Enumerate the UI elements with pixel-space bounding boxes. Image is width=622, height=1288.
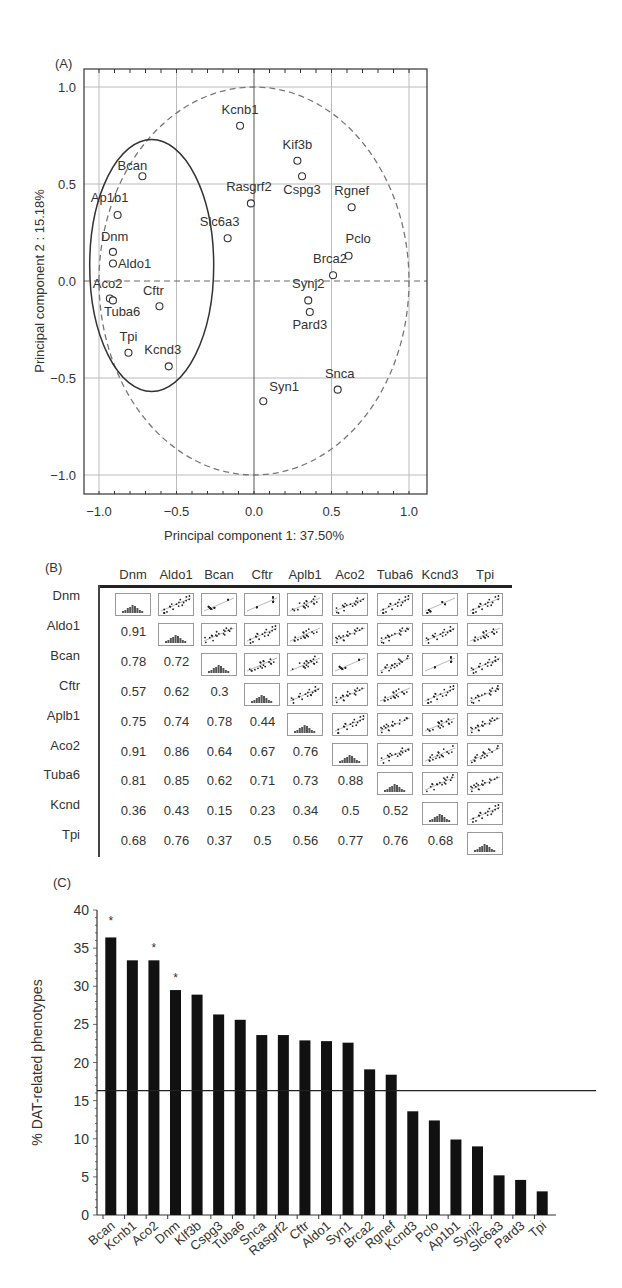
point-label: Brca2 xyxy=(313,251,347,266)
row-header: Aplb1 xyxy=(20,708,80,723)
point-label: Aco2 xyxy=(93,276,123,291)
svg-text:30: 30 xyxy=(73,978,89,994)
scatter-thumbnail xyxy=(158,593,194,616)
correlation-value: 0.57 xyxy=(111,684,156,699)
svg-text:0: 0 xyxy=(81,1207,89,1223)
data-point-rgnef xyxy=(348,204,355,211)
column-header: Kcnd3 xyxy=(415,567,465,582)
correlation-value: 0.88 xyxy=(328,773,373,788)
scatter-thumbnail xyxy=(377,623,413,646)
bar-aldo1 xyxy=(321,1041,332,1215)
scatter-thumbnail xyxy=(287,683,323,706)
scatter-thumbnail xyxy=(287,653,323,676)
row-header: Kcnd xyxy=(20,797,80,812)
correlation-value: 0.86 xyxy=(154,744,199,759)
svg-text:−0.5: −0.5 xyxy=(164,504,190,519)
data-point-pard3 xyxy=(306,309,313,316)
row-header: Aldo1 xyxy=(20,618,80,633)
category-label: Tpi xyxy=(526,1218,550,1241)
svg-text:−0.5: −0.5 xyxy=(50,371,76,386)
bar-tuba6 xyxy=(235,1020,246,1215)
bar-bcan xyxy=(105,937,116,1215)
data-point-slc6a3 xyxy=(224,235,231,242)
correlation-value: 0.62 xyxy=(154,684,199,699)
bar-tpi xyxy=(537,1191,548,1215)
histogram-thumbnail xyxy=(422,802,458,825)
data-point-syn1 xyxy=(260,398,267,405)
scatter-thumbnail xyxy=(332,623,368,646)
histogram-thumbnail xyxy=(467,832,503,855)
data-point-dnm xyxy=(109,248,116,255)
scatter-thumbnail xyxy=(467,772,503,795)
scatter-thumbnail xyxy=(422,683,458,706)
row-header: Bcan xyxy=(20,648,80,663)
significance-star: * xyxy=(173,971,178,985)
point-label: Kcnd3 xyxy=(144,342,181,357)
point-label: Synj2 xyxy=(292,276,325,291)
data-point-kcnb1 xyxy=(237,122,244,129)
bar-cftr xyxy=(299,1040,310,1215)
correlation-value: 0.91 xyxy=(111,624,156,639)
scatter-thumbnail xyxy=(332,653,368,676)
scatter-thumbnail xyxy=(467,593,503,616)
correlation-value: 0.62 xyxy=(197,773,242,788)
correlation-value: 0.78 xyxy=(111,654,156,669)
data-point-rasgrf2 xyxy=(247,200,254,207)
scatter-thumbnail xyxy=(332,683,368,706)
point-label: Kif3b xyxy=(283,137,313,152)
scatter-thumbnail xyxy=(377,743,413,766)
row-header: Aco2 xyxy=(20,738,80,753)
histogram-thumbnail xyxy=(377,772,413,795)
svg-text:25: 25 xyxy=(73,1016,89,1032)
histogram-thumbnail xyxy=(201,653,237,676)
data-point-kcnd3 xyxy=(165,363,172,370)
correlation-value: 0.74 xyxy=(154,714,199,729)
scatter-thumbnail xyxy=(287,593,323,616)
bar-syn1 xyxy=(343,1043,354,1215)
point-label: Snca xyxy=(325,366,355,381)
point-label: Dnm xyxy=(101,229,128,244)
correlation-value: 0.5 xyxy=(240,833,285,848)
matrix-left-border xyxy=(98,585,100,857)
scatter-thumbnail xyxy=(422,593,458,616)
histogram-thumbnail xyxy=(332,743,368,766)
correlation-value: 0.44 xyxy=(240,714,285,729)
correlation-value: 0.36 xyxy=(111,803,156,818)
point-label: Syn1 xyxy=(269,379,299,394)
svg-text:5: 5 xyxy=(81,1169,89,1185)
svg-text:0.5: 0.5 xyxy=(322,504,340,519)
point-label: Bcan xyxy=(118,158,148,173)
scatter-thumbnail xyxy=(467,623,503,646)
correlation-value: 0.75 xyxy=(111,714,156,729)
svg-text:35: 35 xyxy=(73,940,89,956)
row-header: Dnm xyxy=(20,588,80,603)
bar-rasgrf2 xyxy=(278,1035,289,1215)
column-header: Tuba6 xyxy=(370,567,420,582)
histogram-thumbnail xyxy=(158,623,194,646)
svg-text:0.0: 0.0 xyxy=(58,274,76,289)
svg-text:1.0: 1.0 xyxy=(58,80,76,95)
correlation-value: 0.67 xyxy=(240,744,285,759)
histogram-thumbnail xyxy=(287,713,323,736)
scatter-thumbnail xyxy=(467,653,503,676)
data-point-snca xyxy=(334,386,341,393)
panel-b-label: (B) xyxy=(45,560,62,575)
bar-kcnb1 xyxy=(127,960,138,1215)
svg-text:20: 20 xyxy=(73,1055,89,1071)
svg-text:0.0: 0.0 xyxy=(245,504,263,519)
scatter-thumbnail xyxy=(422,713,458,736)
correlation-value: 0.43 xyxy=(154,803,199,818)
column-header: Aco2 xyxy=(325,567,375,582)
data-point-cspg3 xyxy=(299,173,306,180)
scatter-thumbnail xyxy=(244,593,280,616)
scatter-thumbnail xyxy=(287,623,323,646)
correlation-value: 0.34 xyxy=(283,803,328,818)
correlation-value: 0.37 xyxy=(197,833,242,848)
pca-scatter-plot: −1.0−0.50.00.51.01.00.50.0−0.5−1.0Princi… xyxy=(0,0,622,590)
correlation-value: 0.78 xyxy=(197,714,242,729)
correlation-value: 0.5 xyxy=(328,803,373,818)
svg-text:−1.0: −1.0 xyxy=(86,504,112,519)
data-point-cftr xyxy=(156,303,163,310)
bar-rgnef xyxy=(386,1075,397,1215)
bar-synj2 xyxy=(472,1146,483,1215)
